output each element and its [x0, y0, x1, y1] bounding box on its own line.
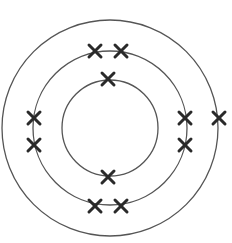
bohr-diagram — [0, 0, 232, 243]
electron-cross-icon — [115, 200, 127, 212]
electron-cross-icon — [102, 171, 114, 183]
shell-1-circle — [62, 80, 158, 176]
electron-cross-icon — [89, 45, 101, 57]
electron-cross-icon — [179, 112, 191, 124]
electrons-group — [28, 45, 225, 212]
electron-cross-icon — [102, 73, 114, 85]
electron-cross-icon — [89, 200, 101, 212]
shell-3-circle — [2, 20, 218, 236]
shell-2-circle — [33, 51, 187, 205]
shells-group — [2, 20, 218, 236]
electron-cross-icon — [179, 139, 191, 151]
electron-cross-icon — [213, 112, 225, 124]
